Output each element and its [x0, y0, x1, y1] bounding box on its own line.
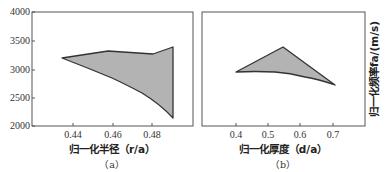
y-tick-3000: 3000: [10, 64, 30, 75]
y-tick-2000: 2000: [10, 120, 30, 131]
x-tick-0.44: 0.44: [64, 129, 82, 140]
x-tick-0.48: 0.48: [143, 129, 161, 140]
y-tick-3500: 3500: [10, 35, 30, 46]
panel-a-y-tick-labels: 4000 3500 3000 2500 2000: [10, 6, 30, 131]
panel-b-band-region: [236, 47, 335, 85]
y-tick-2500: 2500: [10, 92, 30, 103]
panel-b-caption: （b）: [270, 159, 296, 170]
panel-a-x-axis-label: 归一化半径（r/a）: [69, 143, 155, 155]
panel-a: 4000 3500 3000 2500 2000 0.44 0.46 0.48 …: [10, 6, 193, 170]
x-tick-0.46: 0.46: [104, 129, 122, 140]
x-tick-0.5: 0.5: [262, 129, 275, 140]
panel-a-x-tick-labels: 0.44 0.46 0.48: [64, 129, 161, 140]
panel-a-caption: （a）: [99, 159, 125, 170]
panel-a-band-region: [62, 47, 173, 118]
x-tick-0.4: 0.4: [230, 129, 243, 140]
panel-b: 0.4 0.5 0.6 0.7 归一化厚度（d/a） （b） 归一化频率fa/(…: [202, 12, 380, 170]
panel-b-x-tick-labels: 0.4 0.5 0.6 0.7: [230, 129, 340, 140]
x-tick-0.7: 0.7: [327, 129, 340, 140]
figure: 4000 3500 3000 2500 2000 0.44 0.46 0.48 …: [0, 0, 388, 172]
panel-b-y-axis-label: 归一化频率fa/(m/s): [368, 21, 380, 117]
panel-b-x-axis-label: 归一化厚度（d/a）: [239, 143, 327, 155]
y-tick-4000: 4000: [10, 6, 30, 17]
x-tick-0.6: 0.6: [294, 129, 307, 140]
